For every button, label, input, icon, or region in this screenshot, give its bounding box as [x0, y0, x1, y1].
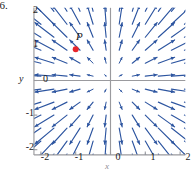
field-arrow	[52, 23, 67, 38]
x-tick-label: 2	[180, 151, 196, 162]
field-arrow	[105, 75, 107, 77]
field-arrow	[70, 57, 80, 63]
field-arrow	[171, 23, 192, 38]
field-arrow	[132, 57, 139, 63]
field-arrow	[87, 115, 93, 127]
field-arrow	[184, 0, 196, 11]
field-arrow	[158, 115, 174, 127]
field-arrow	[184, 115, 196, 127]
field-arrow	[52, 57, 67, 63]
field-arrow	[52, 115, 67, 127]
field-arrow	[132, 0, 140, 11]
field-arrow	[132, 128, 140, 144]
field-arrow	[184, 128, 196, 144]
field-arrow	[70, 73, 80, 77]
field-arrow	[119, 23, 123, 38]
x-tick-label: 0	[110, 151, 126, 162]
field-arrow	[158, 23, 174, 38]
field-arrow	[70, 115, 80, 127]
field-arrow	[132, 115, 139, 127]
field-arrow	[103, 40, 107, 50]
field-arrow	[104, 102, 107, 109]
point-p-marker	[73, 46, 79, 52]
field-arrow	[87, 128, 93, 144]
field-arrow	[145, 128, 157, 144]
y-tick-label: 1	[22, 38, 38, 49]
field-arrow	[103, 5, 107, 24]
field-arrow	[184, 40, 196, 51]
field-arrow	[104, 57, 106, 63]
field-arrow	[184, 102, 196, 110]
field-arrow	[70, 89, 80, 93]
field-arrow	[52, 128, 67, 144]
field-arrow	[70, 128, 80, 144]
field-arrow	[70, 102, 80, 109]
field-arrow	[184, 73, 196, 77]
field-arrow	[87, 89, 93, 92]
y-tick-label: 2	[22, 4, 38, 15]
field-arrow	[145, 102, 157, 109]
field-arrow	[52, 141, 67, 162]
x-tick-label: 1	[145, 151, 161, 162]
field-arrow	[145, 23, 157, 38]
y-tick-label: -1	[18, 107, 34, 118]
field-arrow	[119, 115, 123, 127]
field-arrow	[119, 57, 122, 63]
figure-container: 36. y x P 2 1 0 -1 -2 -2 -1 0 1 2	[0, 0, 196, 172]
field-arrow	[119, 40, 123, 50]
field-arrow	[87, 23, 93, 38]
y-axis-label: y	[19, 73, 23, 84]
x-tick-label: -2	[37, 151, 53, 162]
field-arrow	[119, 89, 122, 92]
y-tick-label: -2	[18, 141, 34, 152]
field-arrow	[184, 89, 196, 93]
x-axis-label: x	[105, 161, 109, 171]
field-arrow	[171, 0, 192, 11]
field-arrow	[145, 0, 157, 11]
field-arrow	[52, 89, 67, 93]
field-arrow	[52, 102, 67, 109]
field-arrow	[87, 74, 93, 76]
field-arrow	[184, 23, 196, 38]
field-arrow	[145, 40, 157, 50]
field-arrow	[145, 89, 157, 93]
field-arrow	[103, 115, 107, 127]
field-arrow	[69, 0, 80, 11]
field-arrow	[184, 5, 196, 24]
field-arrow	[145, 73, 157, 77]
field-arrow	[52, 40, 67, 50]
field-arrow	[132, 89, 139, 92]
field-arrow	[87, 40, 93, 50]
y-tick-label: 0	[32, 73, 48, 84]
field-arrow	[119, 102, 122, 109]
field-arrow	[132, 23, 139, 38]
field-arrow	[145, 115, 157, 127]
field-arrow	[171, 40, 192, 50]
field-arrow	[171, 89, 192, 93]
field-arrow	[158, 40, 174, 50]
field-arrow	[86, 154, 93, 172]
field-arrow	[86, 0, 93, 11]
field-arrow	[145, 57, 157, 63]
field-arrow	[171, 115, 192, 127]
vector-field-arrows	[17, 0, 196, 172]
field-arrow	[52, 0, 67, 11]
field-arrow	[132, 102, 139, 109]
field-arrow	[119, 75, 122, 77]
point-p-label: P	[76, 30, 83, 42]
field-arrow	[52, 154, 67, 172]
x-tick-label: -1	[71, 151, 87, 162]
field-arrow	[105, 89, 107, 92]
field-arrow	[158, 102, 174, 110]
field-arrow	[132, 74, 139, 77]
field-arrow	[158, 57, 174, 63]
field-arrow	[87, 102, 93, 109]
field-arrow	[171, 128, 192, 144]
field-arrow	[132, 40, 139, 50]
field-arrow	[87, 57, 93, 63]
field-arrow	[184, 56, 196, 63]
field-arrow	[132, 154, 140, 172]
